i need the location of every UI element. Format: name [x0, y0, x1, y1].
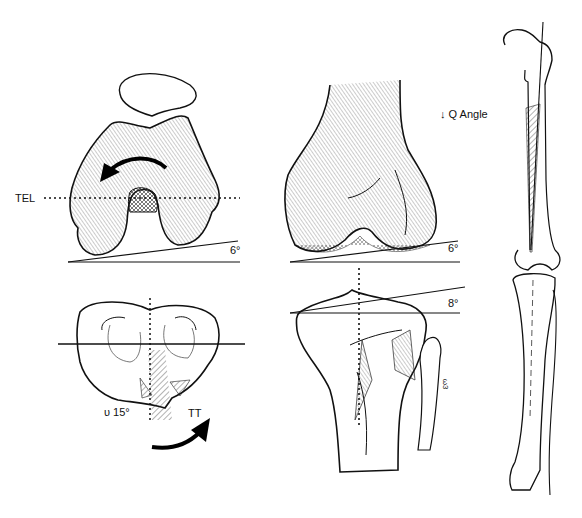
femur-anterior-angle-label: 6°	[448, 243, 459, 254]
tibia-rotation-label: υ 15°	[104, 407, 130, 418]
tibia-anterior-angle-label: 8°	[448, 298, 459, 309]
tt-label: TT	[188, 408, 201, 419]
femur-anterior-panel	[285, 80, 460, 262]
rotation-arrow-tibia	[152, 432, 200, 448]
tel-label: TEL	[15, 193, 35, 204]
femur-axial-angle-label: 6°	[230, 245, 241, 256]
q-angle-label: ↓ Q Angle	[440, 109, 488, 120]
small-annotation-label: ω3	[441, 379, 449, 390]
whole-leg-panel	[504, 22, 560, 495]
tibia-shaft	[510, 274, 555, 490]
knee-joint	[515, 250, 560, 270]
distal-femur-condyles	[70, 116, 219, 255]
distal-femur-anterior	[285, 80, 436, 251]
patella-outline	[119, 74, 196, 116]
tibia-anterior-panel	[290, 268, 465, 472]
tibia-axial-panel	[58, 298, 245, 448]
fibular-head	[418, 337, 441, 450]
femoral-head	[504, 30, 552, 85]
anatomy-illustration	[0, 0, 582, 518]
femur-axial-panel	[44, 74, 240, 262]
